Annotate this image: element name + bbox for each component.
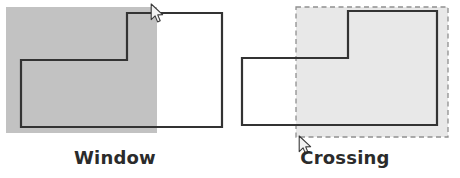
panel-label-window: Window [0, 145, 230, 171]
panel-crossing: Crossing [230, 0, 460, 178]
crossing-selection-rectangle [296, 7, 448, 137]
panel-window: Window [0, 0, 230, 178]
selection-comparison-figure: Window Crossing [0, 0, 460, 178]
window-canvas [0, 0, 230, 145]
window-selection-rectangle [6, 7, 157, 133]
crossing-canvas [230, 0, 460, 145]
panel-label-crossing: Crossing [230, 145, 460, 171]
